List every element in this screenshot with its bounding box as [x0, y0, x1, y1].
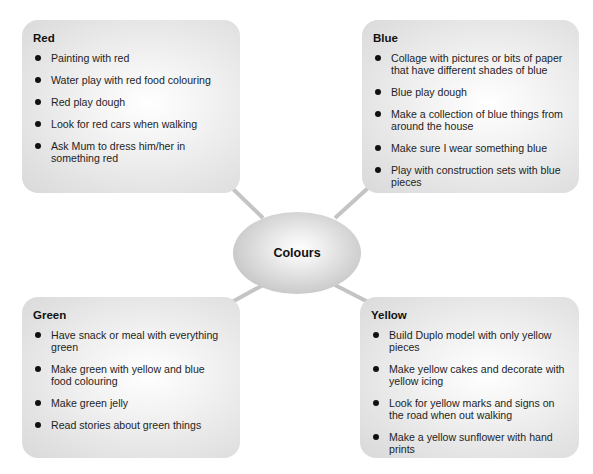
bullet-icon [35, 55, 41, 61]
blue-box: Blue Collage with pictures or bits of pa… [362, 20, 579, 193]
center-label: Colours [273, 246, 320, 260]
list-item: Make green jelly [33, 397, 228, 409]
bullet-icon [375, 145, 381, 151]
blue-title: Blue [373, 32, 567, 44]
list-item: Blue play dough [373, 86, 567, 98]
bullet-icon [35, 77, 41, 83]
list-item: Make sure I wear something blue [373, 142, 567, 154]
bullet-icon [375, 111, 381, 117]
connector-red [232, 188, 263, 218]
list-item: Read stories about green things [33, 419, 228, 431]
bullet-icon [375, 89, 381, 95]
list-item: Have snack or meal with everything green [33, 329, 228, 353]
bullet-icon [375, 167, 381, 173]
list-item: Look for red cars when walking [33, 118, 228, 130]
bullet-icon [35, 332, 41, 338]
green-list: Have snack or meal with everything green… [33, 329, 228, 431]
bullet-icon [373, 332, 379, 338]
bullet-icon [35, 422, 41, 428]
list-item: Ask Mum to dress him/her in something re… [33, 140, 228, 164]
list-item: Make yellow cakes and decorate with yell… [371, 363, 567, 387]
bullet-icon [35, 121, 41, 127]
connector-green [232, 285, 263, 302]
red-box: Red Painting with red Water play with re… [22, 20, 240, 193]
bullet-icon [373, 366, 379, 372]
list-item: Painting with red [33, 52, 228, 64]
bullet-icon [373, 400, 379, 406]
list-item: Make green with yellow and blue food col… [33, 363, 228, 387]
connector-yellow [335, 285, 368, 302]
list-item: Make a collection of blue things from ar… [373, 108, 567, 132]
list-item: Water play with red food colouring [33, 74, 228, 86]
blue-list: Collage with pictures or bits of paper t… [373, 52, 567, 188]
red-title: Red [33, 32, 228, 44]
green-box: Green Have snack or meal with everything… [22, 297, 240, 458]
bullet-icon [373, 434, 379, 440]
bullet-icon [35, 143, 41, 149]
red-list: Painting with red Water play with red fo… [33, 52, 228, 164]
connector-blue [335, 188, 368, 218]
bullet-icon [35, 366, 41, 372]
list-item: Make a yellow sunflower with hand prints [371, 431, 567, 455]
list-item: Look for yellow marks and signs on the r… [371, 397, 567, 421]
yellow-title: Yellow [371, 309, 567, 321]
center-node: Colours [233, 212, 361, 294]
list-item: Play with construction sets with blue pi… [373, 164, 567, 188]
list-item: Collage with pictures or bits of paper t… [373, 52, 567, 76]
list-item: Red play dough [33, 96, 228, 108]
bullet-icon [35, 400, 41, 406]
yellow-list: Build Duplo model with only yellow piece… [371, 329, 567, 455]
list-item: Build Duplo model with only yellow piece… [371, 329, 567, 353]
bullet-icon [35, 99, 41, 105]
yellow-box: Yellow Build Duplo model with only yello… [360, 297, 579, 458]
bullet-icon [375, 55, 381, 61]
green-title: Green [33, 309, 228, 321]
